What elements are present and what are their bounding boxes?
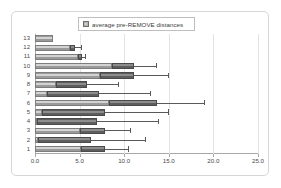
bar-row[interactable]: [35, 52, 258, 61]
chart-legend[interactable]: average pre-REMOVE distances: [78, 17, 195, 31]
error-bar-cap: [128, 146, 129, 151]
bar-segment-primary[interactable]: [35, 54, 78, 60]
bar-segment-primary[interactable]: [35, 35, 53, 41]
bar-segment-secondary[interactable]: [37, 118, 98, 124]
error-bar-cap: [156, 63, 157, 68]
error-bar-cap: [130, 128, 131, 133]
bar-segment-primary[interactable]: [35, 45, 70, 51]
y-axis-tick-label: 2: [27, 136, 30, 145]
bar-segment-primary[interactable]: [35, 63, 112, 69]
error-bar: [87, 84, 118, 85]
error-bar-cap: [158, 119, 159, 124]
bar-segment-secondary[interactable]: [56, 81, 86, 87]
x-axis-tick-label: 15.0: [163, 157, 175, 164]
error-bar: [134, 66, 156, 67]
bar-row[interactable]: [35, 89, 258, 98]
bar-segment-secondary[interactable]: [42, 109, 105, 115]
error-bar: [99, 93, 150, 94]
error-bar-cap: [81, 45, 82, 50]
bar-segment-secondary[interactable]: [112, 63, 134, 69]
bar-segment-primary[interactable]: [35, 72, 100, 78]
y-axis-tick-label: 7: [27, 89, 30, 98]
legend-swatch-icon: [83, 21, 89, 27]
bar-segment-secondary[interactable]: [81, 146, 104, 152]
bar-segment-primary[interactable]: [35, 100, 109, 106]
x-axis-tick-label: 25.0: [252, 157, 264, 164]
chart-container: average pre-REMOVE distances 13121110987…: [0, 0, 281, 188]
error-bar-cap: [168, 73, 169, 78]
bar-segment-primary[interactable]: [35, 128, 80, 134]
y-axis-tick-label: 13: [23, 34, 30, 43]
bar-row[interactable]: [35, 117, 258, 126]
error-bar-cap: [150, 91, 151, 96]
bar-segment-secondary[interactable]: [100, 72, 134, 78]
error-bar: [134, 75, 168, 76]
x-axis-tick: [35, 154, 36, 157]
y-axis-tick-label: 3: [27, 126, 30, 135]
legend-label: average pre-REMOVE distances: [92, 21, 183, 28]
bar-segment-secondary[interactable]: [109, 100, 157, 106]
x-axis-labels: 0.05.010.015.020.025.0: [35, 157, 258, 169]
y-axis-tick-label: 6: [27, 99, 30, 108]
y-axis-tick-label: 10: [23, 62, 30, 71]
bar-row[interactable]: [35, 99, 258, 108]
bar-row[interactable]: [35, 34, 258, 43]
x-axis-tick: [258, 154, 259, 157]
y-axis-tick-label: 8: [27, 80, 30, 89]
bar-row[interactable]: [35, 80, 258, 89]
bar-segment-secondary[interactable]: [38, 137, 92, 143]
x-axis-tick-label: 5.0: [75, 157, 84, 164]
bar-row[interactable]: [35, 71, 258, 80]
bar-row[interactable]: [35, 145, 258, 154]
error-bar-cap: [118, 82, 119, 87]
x-axis-tick: [124, 154, 125, 157]
error-bar-cap: [204, 100, 205, 105]
x-axis-tick: [169, 154, 170, 157]
bar-segment-primary[interactable]: [35, 146, 81, 152]
y-axis-tick-label: 4: [27, 117, 30, 126]
bar-row[interactable]: [35, 136, 258, 145]
bar-segment-secondary[interactable]: [47, 91, 99, 97]
y-axis-tick-label: 12: [23, 43, 30, 52]
error-bar: [105, 130, 130, 131]
y-axis-tick-label: 1: [27, 145, 30, 154]
bar-row[interactable]: [35, 62, 258, 71]
y-axis-tick-label: 11: [24, 52, 30, 61]
bar-segment-primary[interactable]: [35, 81, 56, 87]
y-axis-tick-label: 5: [27, 108, 30, 117]
bar-row[interactable]: [35, 108, 258, 117]
error-bar: [105, 112, 167, 113]
y-axis-labels: 13121110987654321: [0, 34, 33, 154]
bar-row[interactable]: [35, 126, 258, 135]
x-axis-tick-label: 20.0: [207, 157, 219, 164]
gridline: [258, 34, 259, 154]
y-axis-tick-label: 9: [27, 71, 30, 80]
error-bar-cap: [168, 109, 169, 114]
bar-row[interactable]: [35, 43, 258, 52]
x-axis-tick-label: 10.0: [118, 157, 130, 164]
error-bar-cap: [145, 137, 146, 142]
bar-segment-primary[interactable]: [35, 109, 42, 115]
x-axis-tick: [213, 154, 214, 157]
error-bar-cap: [85, 54, 86, 59]
x-axis-tick: [80, 154, 81, 157]
error-bar: [105, 149, 128, 150]
error-bar: [91, 140, 145, 141]
bar-segment-primary[interactable]: [35, 91, 47, 97]
x-axis-tick-label: 0.0: [31, 157, 40, 164]
bar-segment-secondary[interactable]: [80, 128, 105, 134]
error-bar: [97, 121, 158, 122]
error-bar: [157, 103, 204, 104]
plot-area: [35, 34, 258, 154]
